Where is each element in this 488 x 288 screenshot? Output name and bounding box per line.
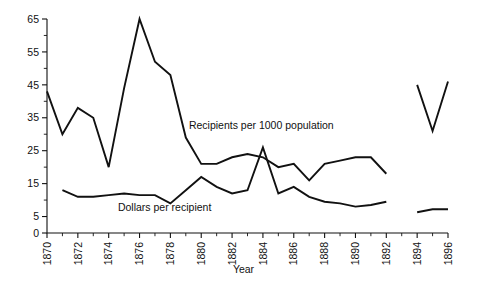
data-series (47, 19, 448, 212)
x-tick-label: 1876 (133, 242, 145, 266)
x-tick-label: 1886 (287, 242, 299, 266)
series-line-recipients-seg1 (417, 82, 448, 131)
chart-container: 05152535455565 1870187218741876187818801… (0, 0, 488, 288)
x-axis-ticks (47, 233, 448, 238)
x-axis-tick-labels: 1870187218741876187818801882188418861888… (41, 242, 454, 266)
y-tick-label: 45 (27, 79, 39, 91)
line-chart-svg: 05152535455565 1870187218741876187818801… (0, 0, 488, 288)
x-tick-label: 1896 (442, 242, 454, 266)
x-tick-label: 1894 (411, 242, 423, 266)
x-tick-label: 1872 (72, 242, 84, 266)
x-tick-label: 1890 (349, 242, 361, 266)
x-tick-label: 1874 (102, 242, 114, 266)
y-tick-label: 15 (27, 177, 39, 189)
x-tick-label: 1882 (226, 242, 238, 266)
x-axis-title: Year (233, 263, 255, 275)
x-tick-label: 1884 (257, 242, 269, 266)
y-tick-label: 0 (33, 227, 39, 239)
series-label-dollars: Dollars per recipient (118, 201, 211, 213)
y-tick-label: 55 (27, 46, 39, 58)
y-axis-ticks (42, 19, 47, 233)
series-label-recipients: Recipients per 1000 population (189, 119, 334, 131)
y-tick-label: 35 (27, 111, 39, 123)
series-line-recipients-seg0 (47, 19, 386, 180)
series-annotations: Recipients per 1000 populationDollars pe… (118, 119, 334, 213)
y-axis-tick-labels: 05152535455565 (27, 13, 39, 239)
series-line-dollars-seg1 (417, 209, 448, 212)
x-tick-label: 1878 (164, 242, 176, 266)
y-tick-label: 65 (27, 13, 39, 25)
x-tick-label: 1880 (195, 242, 207, 266)
x-tick-label: 1888 (318, 242, 330, 266)
y-tick-label: 5 (33, 210, 39, 222)
y-tick-label: 25 (27, 144, 39, 156)
x-tick-label: 1870 (41, 242, 53, 266)
x-tick-label: 1892 (380, 242, 392, 266)
